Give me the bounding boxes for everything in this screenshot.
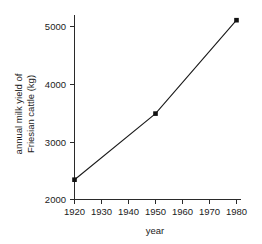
y-tick-label-4000: 4000 xyxy=(45,79,66,90)
y-tick-label-5000: 5000 xyxy=(45,21,66,32)
x-axis-title: year xyxy=(146,225,164,236)
x-tick-label-1960: 1960 xyxy=(172,206,193,217)
x-tick-label-1920: 1920 xyxy=(64,206,85,217)
y-tick-label-3000: 3000 xyxy=(45,137,66,148)
x-tick-label-1940: 1940 xyxy=(118,206,139,217)
chart-canvas: 5000 4000 3000 2000 1920 1930 1940 1950 … xyxy=(0,0,262,244)
x-axis-tick-labels: 1920 1930 1940 1950 1960 1970 1980 xyxy=(64,206,247,217)
milk-yield-line-chart: 5000 4000 3000 2000 1920 1930 1940 1950 … xyxy=(0,0,262,244)
x-tick-label-1930: 1930 xyxy=(91,206,112,217)
y-axis-title-line1: annual milk yield of xyxy=(13,73,24,154)
data-point-1980 xyxy=(234,18,239,23)
x-tick-label-1950: 1950 xyxy=(145,206,166,217)
y-tick-label-2000: 2000 xyxy=(45,194,66,205)
data-point-1950 xyxy=(153,111,158,116)
data-point-1920 xyxy=(72,177,77,182)
y-axis-title: annual milk yield of Friesian cattle (kg… xyxy=(13,73,36,154)
x-tick-label-1970: 1970 xyxy=(199,206,220,217)
x-tick-label-1980: 1980 xyxy=(226,206,247,217)
y-axis-title-line2: Friesian cattle (kg) xyxy=(25,75,36,153)
